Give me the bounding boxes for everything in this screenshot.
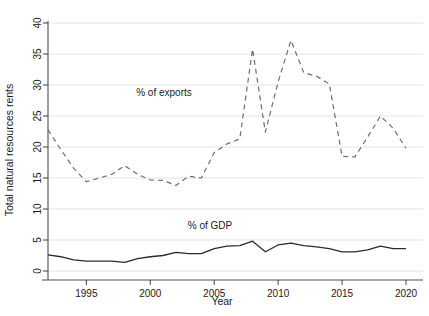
y-tick-label: 25 <box>32 110 43 122</box>
x-tick-label: 2000 <box>139 288 162 299</box>
chart-background <box>0 0 429 316</box>
x-tick-label: 2010 <box>267 288 290 299</box>
y-tick-label: 30 <box>32 79 43 91</box>
x-tick-label: 2020 <box>395 288 418 299</box>
chart-container: 0510152025303540 19952000200520102015202… <box>0 0 429 316</box>
y-axis-title: Total natural resources rents <box>3 84 15 216</box>
y-tick-label: 35 <box>32 48 43 60</box>
y-tick-label: 20 <box>32 141 43 153</box>
x-tick-label: 2015 <box>331 288 354 299</box>
series-annotation-gdp: % of GDP <box>188 220 233 231</box>
x-tick-label: 1995 <box>75 288 98 299</box>
line-chart: 0510152025303540 19952000200520102015202… <box>0 0 429 316</box>
y-tick-label: 15 <box>32 172 43 184</box>
y-tick-label: 0 <box>32 268 43 274</box>
x-axis-title: Year <box>211 295 233 307</box>
y-tick-label: 5 <box>32 237 43 243</box>
y-tick-label: 40 <box>32 17 43 29</box>
y-tick-label: 10 <box>32 203 43 215</box>
series-annotation-exports: % of exports <box>136 87 192 98</box>
